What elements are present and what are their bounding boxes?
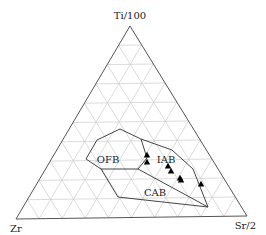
grid-line bbox=[39, 178, 224, 180]
grid-line bbox=[73, 123, 132, 218]
grid-line bbox=[27, 200, 39, 219]
grid-line bbox=[132, 121, 189, 218]
triangle-marker-icon bbox=[144, 152, 150, 158]
triangle-marker-icon bbox=[168, 168, 174, 174]
vertex-label-top: Ti/100 bbox=[114, 10, 146, 21]
vertex-label-right: Sr/2 bbox=[235, 220, 256, 231]
field-label-ofb: OFB bbox=[97, 154, 120, 165]
field-label-cab: CAB bbox=[144, 187, 166, 198]
vertex-label-left: Zr bbox=[10, 223, 22, 234]
grid-line bbox=[96, 83, 165, 84]
ternary-diagram: Ti/100 Zr Sr/2 OFB IAB CAB bbox=[0, 0, 266, 235]
ternary-grid bbox=[27, 45, 235, 219]
grid-line bbox=[62, 64, 153, 218]
grid-line bbox=[73, 121, 189, 123]
grid-line bbox=[224, 197, 235, 216]
triangle-frame bbox=[16, 26, 247, 219]
grid-line bbox=[119, 45, 224, 216]
field-label-iab: IAB bbox=[157, 154, 176, 165]
